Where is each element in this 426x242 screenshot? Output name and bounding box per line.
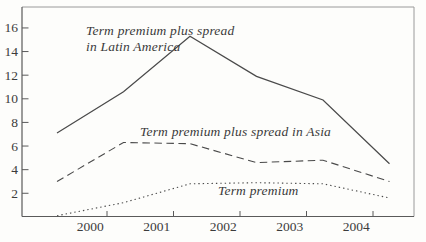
series-label-line: Term premium plus spread in Asia [140, 124, 331, 140]
x-axis-label: 2002 [210, 219, 237, 234]
series-label-asia: Term premium plus spread in Asia [140, 124, 331, 140]
y-axis-label: 14 [5, 44, 19, 59]
series-label-term-premium: Term premium [218, 183, 299, 199]
series-label-line: Term premium plus spread [86, 23, 234, 39]
y-axis-label: 2 [11, 186, 18, 201]
x-axis-label: 2000 [77, 219, 104, 234]
y-axis-label: 10 [5, 91, 19, 106]
line-chart-figure: 24681012141620002001200220032004 Term pr… [0, 0, 426, 242]
y-axis-label: 8 [11, 115, 18, 130]
y-axis-label: 12 [5, 68, 19, 83]
series-line-asia [57, 143, 390, 182]
series-label-line: in Latin America [86, 39, 234, 55]
x-axis-label: 2001 [143, 219, 170, 234]
y-axis-label: 6 [11, 139, 18, 154]
series-label-latin-america: Term premium plus spreadin Latin America [86, 23, 234, 55]
y-axis-label: 16 [5, 20, 19, 35]
series-line-latin-america [57, 36, 390, 164]
y-axis-label: 4 [11, 162, 18, 177]
x-axis-label: 2003 [276, 219, 303, 234]
x-axis-label: 2004 [343, 219, 370, 234]
series-label-line: Term premium [218, 183, 299, 199]
